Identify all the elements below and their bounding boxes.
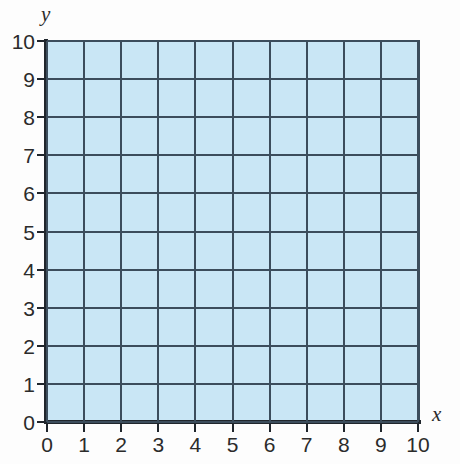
x-axis-tick xyxy=(46,423,48,432)
y-axis-tick xyxy=(37,154,46,156)
x-axis-tick xyxy=(157,423,159,432)
gridline-horizontal xyxy=(47,269,418,271)
x-axis-tick xyxy=(83,423,85,432)
y-axis-tick-label: 1 xyxy=(0,374,35,395)
gridline-horizontal xyxy=(47,154,418,156)
y-axis-tick xyxy=(37,383,46,385)
x-axis-tick xyxy=(232,423,234,432)
y-axis-tick-label: 2 xyxy=(0,336,35,357)
y-axis-tick-label: 8 xyxy=(0,107,35,128)
y-axis-tick-label: 5 xyxy=(0,222,35,243)
y-axis-tick-label: 0 xyxy=(0,412,35,433)
y-axis-tick xyxy=(37,307,46,309)
y-axis-tick xyxy=(37,231,46,233)
y-axis-tick xyxy=(37,192,46,194)
y-axis-label: y xyxy=(41,4,50,25)
x-axis-tick xyxy=(306,423,308,432)
y-axis-tick-label: 6 xyxy=(0,183,35,204)
gridline-horizontal xyxy=(47,78,418,80)
gridline-horizontal xyxy=(47,192,418,194)
x-axis-tick xyxy=(343,423,345,432)
x-axis-tick xyxy=(269,423,271,432)
y-axis-tick-label: 10 xyxy=(0,31,35,52)
y-axis-tick-label: 7 xyxy=(0,145,35,166)
gridline-horizontal xyxy=(47,116,418,118)
y-axis-tick xyxy=(37,78,46,80)
gridline-horizontal xyxy=(47,345,418,347)
y-axis-tick xyxy=(37,345,46,347)
x-axis-label: x xyxy=(432,404,441,425)
x-axis-tick xyxy=(417,423,419,432)
x-axis-tick xyxy=(380,423,382,432)
x-axis-tick xyxy=(194,423,196,432)
y-axis-tick xyxy=(37,40,46,42)
gridline-horizontal xyxy=(47,231,418,233)
gridline-horizontal xyxy=(47,307,418,309)
y-axis-tick xyxy=(37,421,46,423)
y-axis-tick xyxy=(37,269,46,271)
y-axis-tick-label: 4 xyxy=(0,260,35,281)
y-axis-tick-label: 3 xyxy=(0,298,35,319)
x-axis-tick-label: 10 xyxy=(396,434,440,455)
gridline-horizontal xyxy=(47,40,418,42)
coordinate-grid-figure: 012345678910012345678910 y x xyxy=(0,0,460,464)
x-axis-tick xyxy=(120,423,122,432)
gridline-horizontal xyxy=(47,383,418,385)
y-axis-tick xyxy=(37,116,46,118)
y-axis-tick-label: 9 xyxy=(0,69,35,90)
